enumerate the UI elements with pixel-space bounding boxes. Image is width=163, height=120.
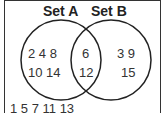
set-b-only-row2: 15	[121, 65, 135, 80]
outside-numbers: 1 5 7 11 13	[10, 101, 74, 116]
intersection-row2: 12	[79, 65, 93, 80]
set-a-only-row1: 2 4 8	[28, 46, 57, 61]
set-b-label: Set B	[91, 3, 127, 19]
set-b-only-row1: 3 9	[117, 46, 135, 61]
set-a-only-row2: 10 14	[28, 65, 61, 80]
intersection-row1: 6	[82, 46, 89, 61]
set-a-label: Set A	[43, 3, 78, 19]
